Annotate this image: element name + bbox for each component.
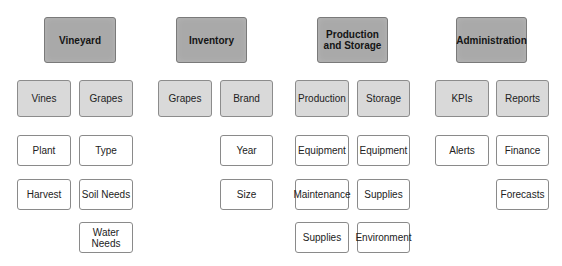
node-storage: Storage [357,80,410,117]
node-kpis: KPIs [435,80,489,117]
node-year: Year [220,135,273,166]
node-storage-supplies: Supplies [357,179,410,210]
node-soil-needs: Soil Needs [79,179,133,210]
node-administration: Administration [456,17,527,63]
hierarchy-diagram: VineyardInventoryProduction and StorageA… [0,0,562,266]
node-vines: Vines [17,80,71,117]
node-maintenance: Maintenance [295,179,349,210]
node-production-supplies: Supplies [295,222,349,253]
node-size: Size [220,179,273,210]
node-water-needs: Water Needs [79,222,133,253]
node-vineyard: Vineyard [44,17,116,63]
node-harvest: Harvest [17,179,71,210]
node-brand: Brand [220,80,273,117]
node-alerts: Alerts [435,135,489,166]
node-production-equipment: Equipment [295,135,349,166]
node-plant: Plant [17,135,71,166]
node-type: Type [79,135,133,166]
node-environment: Environment [357,222,410,253]
node-storage-equipment: Equipment [357,135,410,166]
node-forecasts: Forecasts [496,179,549,210]
node-inventory-grapes: Grapes [158,80,212,117]
node-vineyard-grapes: Grapes [79,80,133,117]
node-inventory: Inventory [176,17,247,63]
node-reports: Reports [496,80,549,117]
node-finance: Finance [496,135,549,166]
node-production-and-storage: Production and Storage [317,17,388,63]
node-production: Production [295,80,349,117]
